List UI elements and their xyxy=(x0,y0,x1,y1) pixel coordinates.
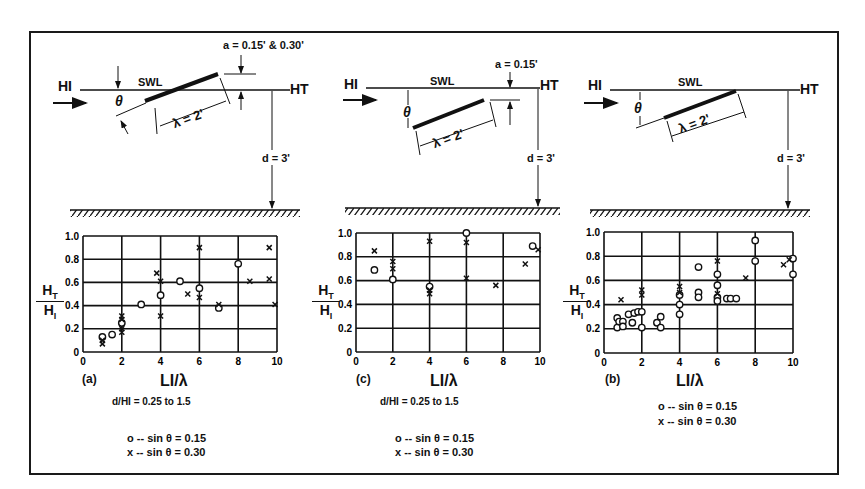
y-tick-label: 0.8 xyxy=(338,251,352,262)
chart-b-ylabel: HT HI xyxy=(563,282,591,321)
y-tick-label: 0.8 xyxy=(65,254,79,265)
x-tick-label: 8 xyxy=(235,356,241,367)
data-point-circle xyxy=(752,258,758,264)
chart-c-xlabel: LI/λ xyxy=(430,372,458,390)
chart-b: 024681000.20.40.60.81.0 xyxy=(586,227,799,369)
data-point-circle xyxy=(639,324,645,330)
data-point-cross xyxy=(523,261,528,266)
x-tick-label: 10 xyxy=(271,356,283,367)
data-point-circle xyxy=(714,282,720,288)
legend-x-a: x -- sin θ = 0.30 xyxy=(127,446,205,458)
data-point-circle xyxy=(177,278,183,284)
legend-x-b: x -- sin θ = 0.30 xyxy=(658,415,736,427)
legend-x-c: x -- sin θ = 0.30 xyxy=(395,446,473,458)
data-point-cross xyxy=(619,297,624,302)
y-tick-label: 0.4 xyxy=(338,299,352,310)
x-tick-label: 6 xyxy=(197,356,203,367)
data-point-cross xyxy=(154,271,159,276)
y-tick-label: 0 xyxy=(594,348,600,359)
ylabel-denominator: HI xyxy=(36,302,64,321)
x-tick-label: 0 xyxy=(601,357,607,368)
data-point-cross xyxy=(267,245,272,250)
data-point-circle xyxy=(676,301,682,307)
data-point-circle xyxy=(752,237,758,243)
data-point-circle xyxy=(109,331,115,337)
data-point-circle xyxy=(639,309,645,315)
x-tick-label: 2 xyxy=(119,356,125,367)
data-point-circle xyxy=(235,261,241,267)
x-tick-label: 2 xyxy=(639,357,645,368)
y-tick-label: 0 xyxy=(73,347,79,358)
y-tick-label: 0.4 xyxy=(65,300,79,311)
x-tick-label: 0 xyxy=(353,356,359,367)
x-tick-label: 8 xyxy=(500,356,506,367)
x-tick-label: 6 xyxy=(715,357,721,368)
y-tick-label: 1.0 xyxy=(65,231,79,242)
x-tick-label: 10 xyxy=(787,357,799,368)
x-tick-label: 10 xyxy=(534,356,546,367)
data-point-circle xyxy=(371,267,377,273)
y-tick-label: 0.2 xyxy=(65,323,79,334)
panel-label-b: (b) xyxy=(605,372,620,386)
data-point-cross xyxy=(493,283,498,288)
x-tick-label: 4 xyxy=(427,356,433,367)
x-tick-label: 4 xyxy=(158,356,164,367)
chart-b-xlabel: LI/λ xyxy=(676,372,704,390)
data-point-circle xyxy=(695,294,701,300)
y-tick-label: 1.0 xyxy=(338,228,352,239)
chart-a-ylabel: HT HI xyxy=(36,282,64,321)
y-tick-label: 0.8 xyxy=(586,251,600,262)
data-point-circle xyxy=(658,314,664,320)
legend-o-b: o -- sin θ = 0.15 xyxy=(658,400,737,412)
series-cross xyxy=(100,245,278,346)
chart-a-xlabel: LI/λ xyxy=(160,372,188,390)
data-point-circle xyxy=(714,298,720,304)
data-point-circle xyxy=(196,285,202,291)
panel-label-a: (a) xyxy=(82,372,97,386)
data-point-circle xyxy=(658,324,664,330)
data-point-circle xyxy=(620,323,626,329)
series-cross xyxy=(372,239,541,296)
data-point-circle xyxy=(733,295,739,301)
data-point-circle xyxy=(695,264,701,270)
y-tick-label: 1.0 xyxy=(586,227,600,238)
y-tick-label: 0.6 xyxy=(338,275,352,286)
x-tick-label: 2 xyxy=(390,356,396,367)
x-tick-label: 4 xyxy=(677,357,683,368)
data-point-circle xyxy=(529,243,535,249)
legend-o-c: o -- sin θ = 0.15 xyxy=(395,432,474,444)
chart-a: 024681000.20.40.60.81.0 xyxy=(65,231,283,368)
data-point-cross xyxy=(372,248,377,253)
y-tick-label: 0.2 xyxy=(338,323,352,334)
data-point-cross xyxy=(781,262,786,267)
x-tick-label: 6 xyxy=(464,356,470,367)
y-tick-label: 0.6 xyxy=(65,277,79,288)
condition-a: d/HI = 0.25 to 1.5 xyxy=(112,396,191,407)
data-point-cross xyxy=(185,292,190,297)
chart-c-ylabel: HT HI xyxy=(312,282,340,321)
ylabel-numerator: HT xyxy=(36,282,64,302)
data-point-cross xyxy=(267,276,272,281)
panel-label-c: (c) xyxy=(356,372,371,386)
x-tick-label: 8 xyxy=(752,357,758,368)
y-tick-label: 0 xyxy=(346,347,352,358)
chart-c: 024681000.20.40.60.81.0 xyxy=(338,228,546,368)
data-point-circle xyxy=(138,301,144,307)
data-point-circle xyxy=(629,320,635,326)
x-tick-label: 0 xyxy=(80,356,86,367)
data-point-circle xyxy=(790,271,796,277)
data-point-circle xyxy=(157,292,163,298)
y-tick-label: 0.2 xyxy=(586,323,600,334)
condition-c: d/HI = 0.25 to 1.5 xyxy=(380,396,459,407)
data-point-circle xyxy=(463,230,469,236)
data-point-circle xyxy=(676,311,682,317)
data-point-circle xyxy=(390,276,396,282)
data-point-circle xyxy=(714,271,720,277)
legend-o-a: o -- sin θ = 0.15 xyxy=(127,432,206,444)
